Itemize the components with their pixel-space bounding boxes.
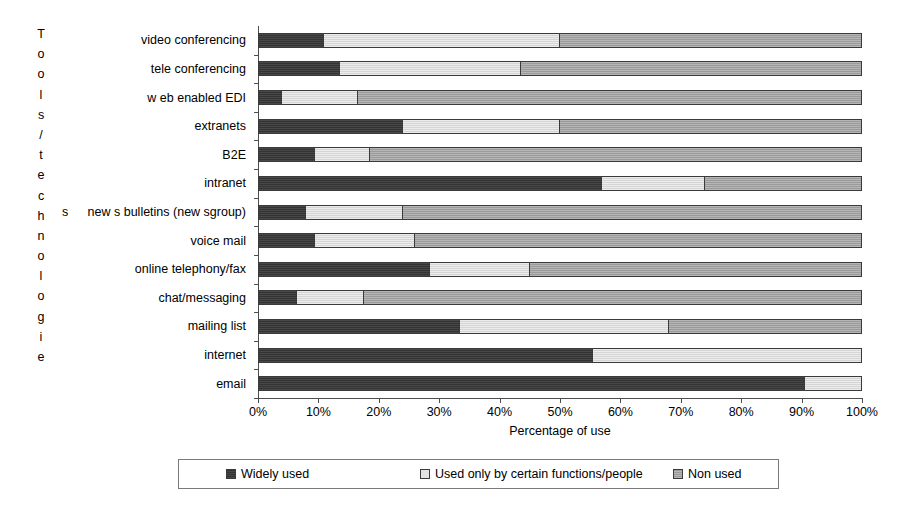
chart-legend: Widely usedUsed only by certain function…: [178, 459, 779, 489]
y-axis-tick: [254, 198, 259, 199]
legend-item[interactable]: Widely used: [226, 466, 309, 482]
category-label: video conferencing: [0, 33, 246, 47]
plot-area: [258, 26, 862, 398]
x-axis-tick: [258, 398, 259, 403]
category-label: extranets: [0, 119, 246, 133]
bar-row: [258, 119, 862, 134]
x-axis-tick: [862, 398, 863, 403]
bar-segment-widely-used: [258, 262, 430, 277]
bar-row: [258, 233, 862, 248]
legend-item[interactable]: Non used: [673, 466, 742, 482]
category-label: intranet: [0, 176, 246, 190]
bar-segment-widely-used: [258, 147, 315, 162]
x-axis-tick-label: 30%: [409, 405, 469, 419]
bar-segment-widely-used: [258, 348, 593, 363]
x-axis-tick-label: 100%: [832, 405, 892, 419]
used-by-certain-swatch: [420, 469, 430, 479]
bar-segment-non-used: [669, 319, 862, 334]
bar-segment-used-by-certain: [340, 61, 521, 76]
bar-segment-widely-used: [258, 33, 324, 48]
bar-row: [258, 205, 862, 220]
y-axis-tick: [254, 112, 259, 113]
y-axis-tick: [254, 169, 259, 170]
bar-segment-widely-used: [258, 319, 460, 334]
bar-segment-widely-used: [258, 176, 602, 191]
bar-row: [258, 176, 862, 191]
y-axis-tick: [254, 55, 259, 56]
bar-segment-used-by-certain: [315, 233, 415, 248]
category-label: email: [0, 377, 246, 391]
bar-row: [258, 33, 862, 48]
bar-segment-non-used: [560, 119, 862, 134]
bar-row: [258, 61, 862, 76]
bar-row: [258, 319, 862, 334]
bar-segment-widely-used: [258, 61, 340, 76]
category-label: new s bulletins (new sgroup): [0, 205, 246, 219]
bar-segment-non-used: [370, 147, 862, 162]
bar-segment-widely-used: [258, 376, 805, 391]
bar-row: [258, 90, 862, 105]
bar-segment-widely-used: [258, 119, 403, 134]
bar-segment-used-by-certain: [315, 147, 369, 162]
y-axis-tick: [254, 83, 259, 84]
x-axis-title: Percentage of use: [258, 424, 862, 438]
x-axis-tick-label: 90%: [772, 405, 832, 419]
bar-segment-used-by-certain: [805, 376, 862, 391]
category-label: chat/messaging: [0, 291, 246, 305]
x-axis-tick: [741, 398, 742, 403]
x-axis-tick-label: 0%: [228, 405, 288, 419]
bar-segment-used-by-certain: [282, 90, 358, 105]
category-label: online telephony/fax: [0, 262, 246, 276]
bar-segment-used-by-certain: [430, 262, 530, 277]
category-label: w eb enabled EDI: [0, 91, 246, 105]
x-axis-tick-label: 50%: [530, 405, 590, 419]
bar-row: [258, 262, 862, 277]
bar-segment-widely-used: [258, 90, 282, 105]
y-axis-tick: [254, 369, 259, 370]
stacked-bar-chart: Tools/technologie s video conferencingte…: [0, 0, 913, 509]
y-axis-tick: [254, 341, 259, 342]
x-axis-tick-label: 40%: [470, 405, 530, 419]
x-axis-tick: [802, 398, 803, 403]
x-axis-tick: [500, 398, 501, 403]
y-axis-tick: [254, 140, 259, 141]
non-used-swatch: [673, 469, 683, 479]
category-label: tele conferencing: [0, 62, 246, 76]
bar-segment-widely-used: [258, 205, 306, 220]
y-axis-tick: [254, 284, 259, 285]
x-axis-tick: [379, 398, 380, 403]
x-axis-tick-label: 10%: [288, 405, 348, 419]
bar-segment-widely-used: [258, 233, 315, 248]
x-axis-tick: [681, 398, 682, 403]
bar-segment-widely-used: [258, 290, 297, 305]
legend-item-label: Widely used: [241, 466, 309, 482]
x-axis-tick: [439, 398, 440, 403]
bar-segment-used-by-certain: [460, 319, 668, 334]
category-label: internet: [0, 348, 246, 362]
bar-row: [258, 348, 862, 363]
y-axis-tick: [254, 312, 259, 313]
legend-item[interactable]: Used only by certain functions/people: [420, 466, 643, 482]
bar-row: [258, 290, 862, 305]
y-axis-tick: [254, 255, 259, 256]
bar-segment-non-used: [415, 233, 862, 248]
bar-row: [258, 147, 862, 162]
bar-segment-used-by-certain: [602, 176, 705, 191]
bar-segment-non-used: [560, 33, 862, 48]
widely-used-swatch: [226, 469, 236, 479]
bar-segment-used-by-certain: [593, 348, 862, 363]
bar-segment-non-used: [705, 176, 862, 191]
bar-segment-used-by-certain: [324, 33, 560, 48]
bar-segment-non-used: [530, 262, 862, 277]
bar-segment-used-by-certain: [306, 205, 403, 220]
x-axis-tick-label: 60%: [590, 405, 650, 419]
bar-segment-used-by-certain: [403, 119, 560, 134]
bar-row: [258, 376, 862, 391]
bar-segment-non-used: [358, 90, 862, 105]
x-axis-tick: [620, 398, 621, 403]
bar-segment-non-used: [364, 290, 862, 305]
x-axis-tick: [318, 398, 319, 403]
bar-segment-non-used: [521, 61, 862, 76]
bar-segment-used-by-certain: [297, 290, 363, 305]
x-axis-tick-label: 20%: [349, 405, 409, 419]
